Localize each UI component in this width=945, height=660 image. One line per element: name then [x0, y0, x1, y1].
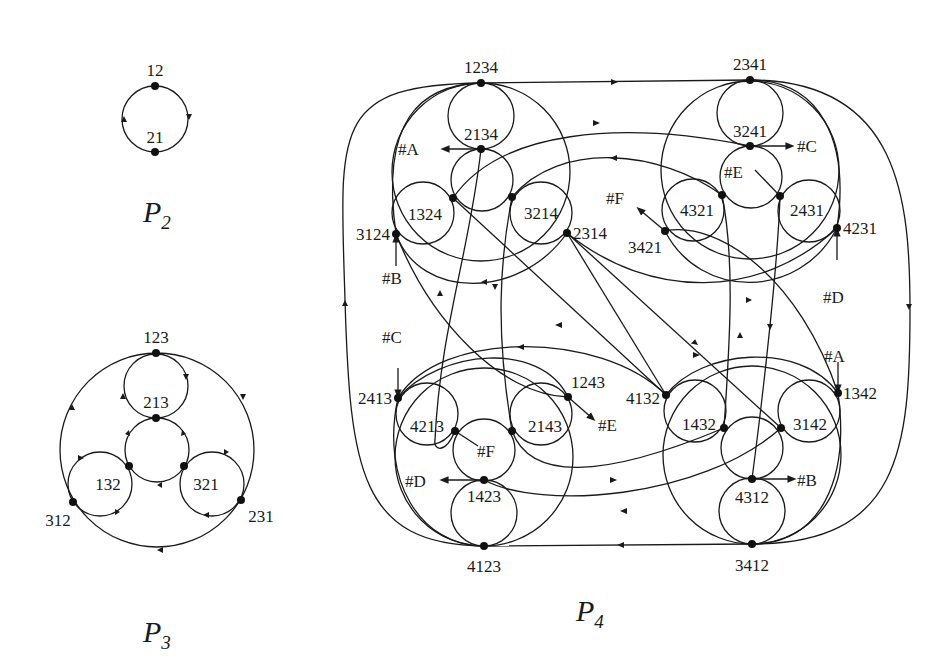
- label-3142: 3142: [793, 415, 827, 434]
- node-21: [151, 148, 159, 156]
- edge-1423-3142: [484, 428, 781, 496]
- node-3241: [746, 142, 754, 150]
- node-132: [125, 462, 133, 470]
- permutation-graph-diagram: 12 21 P2: [0, 0, 945, 660]
- edge-2314-4231: [567, 228, 837, 283]
- marker-C-left: #C: [382, 328, 402, 347]
- label-2413: 2413: [358, 389, 392, 408]
- marker-A-right: #A: [824, 347, 846, 366]
- edge-2431-4312: [752, 196, 780, 479]
- label-4321: 4321: [680, 201, 714, 220]
- edge-2134-4213: [435, 149, 481, 448]
- label-4231: 4231: [843, 219, 877, 238]
- label-213: 213: [143, 393, 169, 412]
- tl-inner-cycle: [451, 149, 513, 211]
- marker-D-bottom: #D: [405, 472, 426, 491]
- node-1423: [480, 476, 488, 484]
- marker-A-top: #A: [398, 140, 420, 159]
- label-1234: 1234: [464, 58, 499, 77]
- node-3124: [392, 230, 400, 238]
- edge-1324-4132: [453, 198, 666, 395]
- node-2413: [394, 394, 402, 402]
- node-1243: [564, 393, 572, 401]
- label-2341: 2341: [733, 55, 767, 74]
- node-321: [180, 462, 188, 470]
- label-321: 321: [193, 475, 219, 494]
- marker-C-top: #C: [797, 137, 817, 156]
- p3-title: P3: [142, 615, 171, 653]
- label-4312: 4312: [735, 488, 769, 507]
- label-4213: 4213: [410, 417, 444, 436]
- label-3124: 3124: [356, 225, 391, 244]
- p4-arrows: [342, 79, 912, 548]
- arrow-icon: [186, 114, 192, 120]
- p4-graph: 1234 2134 1324 3214 3124 2314 2341 3241 …: [342, 55, 912, 632]
- label-1423: 1423: [467, 487, 501, 506]
- label-3412: 3412: [735, 556, 769, 575]
- marker-F-bottom: #F: [477, 442, 495, 461]
- p2-graph: 12 21 P2: [121, 61, 192, 233]
- label-12: 12: [147, 61, 164, 80]
- edge-2314-3142: [567, 233, 781, 428]
- node-4312: [748, 475, 756, 483]
- label-1243: 1243: [571, 373, 605, 392]
- node-3412: [748, 540, 756, 548]
- node-1432: [720, 424, 728, 432]
- label-4132: 4132: [626, 389, 660, 408]
- label-312: 312: [45, 511, 71, 530]
- node-4123: [480, 542, 488, 550]
- stub-E-2431: [755, 170, 780, 196]
- edge-3421-1342: [665, 230, 838, 393]
- tr-outer-cycle: [661, 81, 839, 259]
- label-1342: 1342: [843, 384, 877, 403]
- node-2143: [508, 427, 516, 435]
- label-21: 21: [147, 128, 164, 147]
- node-12: [151, 82, 159, 90]
- stub-3421-F: [640, 210, 665, 231]
- stub-4213-F: [455, 431, 478, 446]
- edge-3124-2314-low: [396, 233, 567, 283]
- node-4213: [451, 427, 459, 435]
- edge-4321-1432: [722, 195, 730, 428]
- label-3241: 3241: [733, 122, 767, 141]
- label-2143: 2143: [528, 417, 562, 436]
- node-312: [69, 498, 77, 506]
- label-231: 231: [248, 507, 274, 526]
- label-1324: 1324: [408, 205, 443, 224]
- label-1432: 1432: [682, 415, 716, 434]
- node-1324: [449, 194, 457, 202]
- label-2314: 2314: [573, 224, 608, 243]
- node-2134: [477, 145, 485, 153]
- node-231: [237, 496, 245, 504]
- node-4132: [662, 391, 670, 399]
- node-3421: [661, 227, 669, 235]
- p2-title: P2: [142, 195, 171, 233]
- node-3214: [508, 193, 516, 201]
- p4-title: P4: [575, 594, 604, 632]
- label-132: 132: [95, 475, 121, 494]
- node-4321: [718, 191, 726, 199]
- label-2431: 2431: [790, 201, 824, 220]
- node-123: [152, 349, 160, 357]
- node-2314: [563, 229, 571, 237]
- label-123: 123: [143, 328, 169, 347]
- marker-B-bottom: #B: [797, 471, 817, 490]
- edge-outer-right: [750, 80, 910, 544]
- marker-F-top: #F: [606, 189, 624, 208]
- p3-inner-cycle: [125, 418, 189, 482]
- label-3421: 3421: [628, 238, 662, 257]
- node-3142: [777, 424, 785, 432]
- marker-D-right: #D: [823, 288, 844, 307]
- br-inner-cycle: [721, 417, 783, 479]
- node-1342: [834, 389, 842, 397]
- edge-2314-4132: [567, 233, 666, 395]
- label-3214: 3214: [524, 204, 559, 223]
- label-2134: 2134: [464, 125, 499, 144]
- marker-E-bottom: #E: [598, 416, 617, 435]
- node-213: [152, 414, 160, 422]
- marker-B-left: #B: [382, 269, 402, 288]
- p3-graph: 123 213 132 321 312 231 P3: [45, 328, 274, 653]
- node-1234: [477, 79, 485, 87]
- label-4123: 4123: [467, 557, 501, 576]
- edge-3214-2143: [501, 197, 512, 431]
